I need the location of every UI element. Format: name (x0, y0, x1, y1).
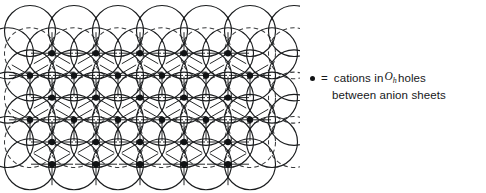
cation-dot (181, 139, 187, 145)
close-packed-lattice-diagram (0, 0, 300, 193)
legend-line-two: between anion sheets (310, 88, 482, 103)
cation-dot (159, 72, 165, 78)
cation-dot (137, 139, 143, 145)
cation-dot (247, 117, 253, 123)
cation-dot (225, 94, 231, 100)
cation-dot (49, 94, 55, 100)
legend: = cations in Oh holes between anion shee… (310, 69, 482, 103)
legend-equals-sign: = (321, 71, 328, 86)
cation-dot (225, 161, 231, 167)
cation-dot (27, 72, 33, 78)
cation-dot (181, 50, 187, 56)
cation-dot (203, 117, 209, 123)
cation-dot (225, 139, 231, 145)
octahedral-symbol-letter: O (384, 70, 392, 82)
cation-dot (159, 117, 165, 123)
cation-dot (137, 50, 143, 56)
cation-dot (93, 161, 99, 167)
cation-dot (49, 139, 55, 145)
legend-line-one: = cations in Oh holes (310, 69, 482, 88)
cation-dot (137, 94, 143, 100)
cation-dot (137, 161, 143, 167)
octahedral-symbol-subscript: h (393, 76, 397, 85)
cation-dot (93, 94, 99, 100)
octahedral-symbol: Oh (384, 69, 397, 88)
cation-dot-icon (310, 76, 315, 81)
cation-dot (181, 94, 187, 100)
cation-dot (27, 117, 33, 123)
cation-dot (93, 50, 99, 56)
cation-dot (49, 50, 55, 56)
legend-text-after: holes (398, 71, 426, 86)
cation-dot (203, 72, 209, 78)
cation-dot (115, 72, 121, 78)
cation-dot (181, 161, 187, 167)
cation-dot (71, 72, 77, 78)
cation-dot (93, 139, 99, 145)
cation-dot (71, 117, 77, 123)
cation-dot (247, 72, 253, 78)
legend-text-before: cations in (334, 71, 384, 86)
cation-dot (49, 161, 55, 167)
figure-root: = cations in Oh holes between anion shee… (0, 0, 486, 193)
cation-dot (115, 117, 121, 123)
cation-dot (225, 50, 231, 56)
